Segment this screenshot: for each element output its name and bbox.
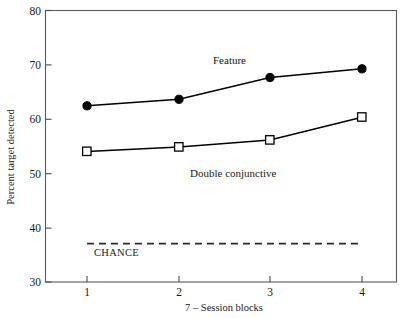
y-tick-label-70: 70 — [30, 59, 42, 71]
y-axis-tick-labels: 80 70 60 50 40 30 — [30, 5, 42, 289]
double-conjunctive-point-4 — [358, 113, 366, 121]
feature-point-2 — [175, 95, 183, 103]
x-tick-label-3: 3 — [267, 286, 273, 298]
feature-point-4 — [358, 65, 366, 73]
y-axis-ticks — [46, 11, 52, 283]
series-double-conjunctive: Double conjunctive — [83, 113, 366, 179]
double-conjunctive-point-1 — [83, 147, 91, 155]
x-axis-tick-labels: 1 2 3 4 — [84, 286, 365, 298]
y-tick-label-50: 50 — [30, 168, 42, 180]
double-conjunctive-series-label: Double conjunctive — [190, 167, 277, 179]
y-tick-label-60: 60 — [30, 113, 42, 125]
x-tick-label-1: 1 — [84, 286, 90, 298]
feature-point-1 — [83, 102, 91, 110]
feature-line — [87, 69, 362, 106]
y-tick-label-40: 40 — [30, 222, 42, 234]
x-axis-title: 7 – Session blocks — [185, 302, 263, 313]
y-axis-title: Percent target detected — [5, 109, 16, 205]
figure-container: 80 70 60 50 40 30 1 2 3 4 7 – Session bl… — [0, 0, 413, 318]
feature-series-label: Feature — [213, 54, 246, 66]
double-conjunctive-point-2 — [175, 143, 183, 151]
y-tick-label-30: 30 — [30, 276, 42, 288]
double-conjunctive-line — [87, 117, 362, 151]
feature-point-3 — [266, 73, 274, 81]
double-conjunctive-point-3 — [266, 136, 274, 144]
x-axis-ticks — [87, 276, 362, 282]
line-chart: 80 70 60 50 40 30 1 2 3 4 7 – Session bl… — [0, 0, 413, 318]
chance-label: CHANCE — [94, 247, 139, 258]
plot-frame — [46, 11, 397, 283]
y-tick-label-80: 80 — [30, 5, 42, 17]
x-tick-label-4: 4 — [359, 286, 365, 298]
series-feature: Feature — [83, 54, 366, 110]
x-tick-label-2: 2 — [176, 286, 182, 298]
